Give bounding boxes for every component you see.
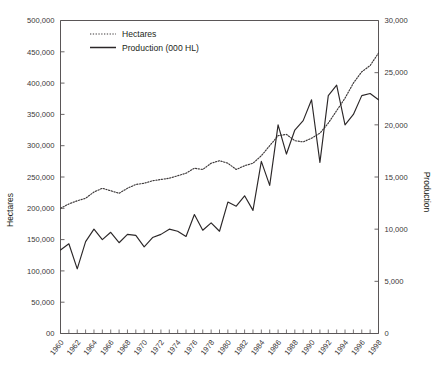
- x-tick-label: 1998: [366, 338, 384, 357]
- series-line-dotted: [61, 53, 379, 208]
- right-axis-ticks: 05,00010,00015,00020,00025,00030,000: [375, 16, 408, 338]
- left-tick-label: 100,000: [27, 267, 54, 276]
- left-tick-label: 500,000: [27, 16, 54, 25]
- x-tick-label: 1972: [148, 338, 166, 357]
- x-tick-label: 1964: [82, 338, 100, 357]
- right-tick-label: 20,000: [385, 121, 408, 130]
- x-tick-label: 1988: [282, 338, 300, 357]
- left-tick-label: 200,000: [27, 204, 54, 213]
- right-tick-label: 5,000: [385, 277, 404, 286]
- left-tick-label: 300,000: [27, 141, 54, 150]
- legend-label: Hectares: [122, 29, 156, 39]
- x-tick-label: 1966: [98, 338, 116, 357]
- y-axis-title: Hectares: [5, 193, 15, 227]
- x-tick-label: 1976: [182, 338, 200, 357]
- x-tick-label: 1994: [333, 338, 351, 357]
- legend-label: Production (000 HL): [122, 43, 199, 53]
- x-tick-label: 1960: [48, 338, 66, 357]
- chart-series: [61, 53, 379, 269]
- left-tick-label: 350,000: [27, 110, 54, 119]
- x-tick-label: 1990: [299, 338, 317, 357]
- chart-legend: HectaresProduction (000 HL): [90, 29, 199, 53]
- chart-axes: [61, 21, 379, 334]
- x-tick-label: 1982: [232, 338, 250, 357]
- right-tick-label: 10,000: [385, 225, 408, 234]
- x-tick-label: 1996: [349, 338, 367, 357]
- right-tick-label: 25,000: [385, 68, 408, 77]
- x-tick-label: 1992: [316, 338, 334, 357]
- x-tick-label: 1974: [165, 338, 183, 357]
- left-tick-label: 250,000: [27, 173, 54, 182]
- axis-titles: HectaresProduction: [5, 172, 432, 227]
- left-tick-label: 450,000: [27, 48, 54, 57]
- right-tick-label: 0: [385, 329, 389, 338]
- x-tick-label: 1968: [115, 338, 133, 357]
- x-tick-label: 1986: [266, 338, 284, 357]
- left-tick-label: 00: [46, 329, 54, 338]
- left-tick-label: 50,000: [31, 298, 54, 307]
- line-chart: 0050,000100,000150,000200,000250,000300,…: [0, 0, 432, 371]
- right-tick-label: 30,000: [385, 16, 408, 25]
- right-tick-label: 15,000: [385, 173, 408, 182]
- x-tick-label: 1984: [249, 338, 267, 357]
- x-tick-label: 1980: [215, 338, 233, 357]
- chart-container: 0050,000100,000150,000200,000250,000300,…: [0, 0, 432, 371]
- series-line-solid: [61, 85, 379, 269]
- left-axis-ticks: 0050,000100,000150,000200,000250,000300,…: [27, 16, 64, 338]
- left-tick-label: 150,000: [27, 235, 54, 244]
- x-tick-label: 1978: [199, 338, 217, 357]
- left-tick-label: 400,000: [27, 79, 54, 88]
- plot-frame: [61, 21, 379, 334]
- x-tick-label: 1962: [65, 338, 83, 357]
- y2-axis-title: Production: [422, 172, 432, 213]
- x-tick-label: 1970: [132, 338, 150, 357]
